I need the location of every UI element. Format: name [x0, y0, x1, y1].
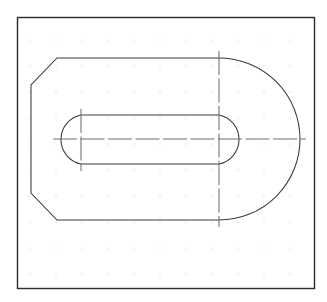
- grid-dot: [263, 39, 264, 40]
- grid-dot: [211, 91, 212, 92]
- grid-dot: [211, 117, 212, 118]
- grid-dot: [159, 39, 160, 40]
- grid-dot: [107, 143, 108, 144]
- grid-dot: [237, 39, 238, 40]
- grid-dot: [263, 195, 264, 196]
- grid-dot: [185, 169, 186, 170]
- grid-dot: [107, 273, 108, 274]
- grid-dot: [133, 169, 134, 170]
- grid-dot: [55, 273, 56, 274]
- grid-dot: [133, 247, 134, 248]
- grid-dot: [29, 65, 30, 66]
- grid-dot: [29, 169, 30, 170]
- grid-dot: [211, 65, 212, 66]
- grid-dot: [107, 247, 108, 248]
- grid-dot: [55, 221, 56, 222]
- grid-dot: [263, 221, 264, 222]
- grid-dot: [55, 117, 56, 118]
- grid-dot: [289, 39, 290, 40]
- grid-dot: [289, 65, 290, 66]
- grid-dot: [159, 65, 160, 66]
- grid-dot: [263, 169, 264, 170]
- grid-dot: [81, 273, 82, 274]
- grid-dot: [29, 91, 30, 92]
- grid-dot: [55, 169, 56, 170]
- grid-dot: [81, 65, 82, 66]
- grid-dot: [29, 273, 30, 274]
- grid-dot: [107, 169, 108, 170]
- grid-dot: [107, 65, 108, 66]
- grid-dot: [29, 39, 30, 40]
- grid-dot: [29, 221, 30, 222]
- grid-dot: [289, 195, 290, 196]
- grid-dot: [81, 221, 82, 222]
- grid-dot: [55, 91, 56, 92]
- grid-dot: [55, 39, 56, 40]
- grid-dot: [263, 143, 264, 144]
- grid-dot: [185, 39, 186, 40]
- grid-dot: [159, 221, 160, 222]
- grid-dot: [289, 273, 290, 274]
- grid-dot: [211, 247, 212, 248]
- grid-dot: [263, 91, 264, 92]
- grid-dot: [133, 143, 134, 144]
- grid-dot: [237, 273, 238, 274]
- grid-dot: [185, 143, 186, 144]
- grid-dot: [133, 195, 134, 196]
- grid-dot: [263, 117, 264, 118]
- grid-dot: [237, 91, 238, 92]
- grid-dot: [185, 247, 186, 248]
- grid-dot: [237, 117, 238, 118]
- grid-dot: [133, 117, 134, 118]
- grid-dot: [185, 195, 186, 196]
- grid-dot: [211, 169, 212, 170]
- grid-dot: [211, 273, 212, 274]
- grid-dot: [211, 195, 212, 196]
- grid-dot: [289, 143, 290, 144]
- grid-dot: [185, 65, 186, 66]
- grid-dot: [29, 143, 30, 144]
- grid-dot: [237, 169, 238, 170]
- grid-dot: [289, 169, 290, 170]
- grid-dot: [211, 39, 212, 40]
- grid-dot: [107, 221, 108, 222]
- grid-dot: [133, 65, 134, 66]
- technical-drawing-svg: [0, 0, 327, 302]
- grid-dot: [29, 247, 30, 248]
- grid-dot: [237, 247, 238, 248]
- grid-dot: [107, 117, 108, 118]
- grid-dot: [185, 221, 186, 222]
- grid-dot: [107, 91, 108, 92]
- grid-dot: [81, 39, 82, 40]
- grid-dot: [55, 247, 56, 248]
- drawing-canvas: [0, 0, 327, 302]
- grid-dot: [133, 273, 134, 274]
- grid-dot: [159, 169, 160, 170]
- grid-dot: [55, 65, 56, 66]
- grid-dot: [81, 247, 82, 248]
- grid-dot: [289, 117, 290, 118]
- grid-dot: [81, 117, 82, 118]
- grid-dot: [133, 221, 134, 222]
- grid-dot: [29, 195, 30, 196]
- grid-dot: [81, 195, 82, 196]
- grid-dot: [263, 247, 264, 248]
- grid-dot: [211, 143, 212, 144]
- grid-dot: [81, 169, 82, 170]
- grid-dot: [289, 247, 290, 248]
- grid-dot: [237, 65, 238, 66]
- grid-dot: [159, 195, 160, 196]
- grid-dot: [81, 143, 82, 144]
- grid-dot: [263, 65, 264, 66]
- grid-dot: [263, 273, 264, 274]
- grid-dot: [237, 195, 238, 196]
- grid-dot: [211, 221, 212, 222]
- grid-dot: [159, 247, 160, 248]
- grid-dot: [185, 117, 186, 118]
- grid-dot: [55, 143, 56, 144]
- grid-dot: [107, 195, 108, 196]
- grid-dot: [159, 143, 160, 144]
- grid-dot: [55, 195, 56, 196]
- grid-dot: [133, 39, 134, 40]
- grid-dot: [159, 117, 160, 118]
